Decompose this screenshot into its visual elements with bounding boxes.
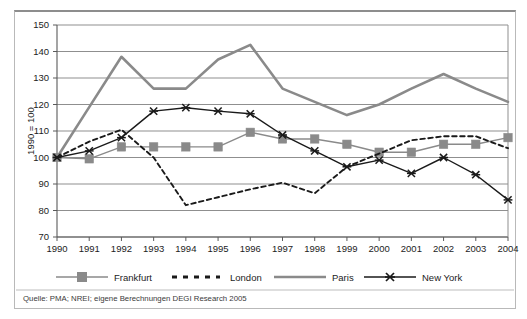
series-marker-frankfurt bbox=[439, 140, 447, 148]
line-chart-svg: 708090100110120130140150 199019911992199… bbox=[0, 0, 527, 319]
x-tick-label: 1990 bbox=[46, 243, 67, 254]
y-tick-label: 150 bbox=[33, 19, 49, 30]
x-tick-label: 1995 bbox=[208, 243, 229, 254]
plot-area-wrapper: 708090100110120130140150 199019911992199… bbox=[0, 0, 527, 319]
legend-item-paris[interactable]: Paris bbox=[274, 272, 354, 283]
y-axis-label: 1990 = 100 bbox=[25, 107, 36, 155]
series-marker-frankfurt bbox=[407, 148, 415, 156]
series-marker-frankfurt bbox=[343, 140, 351, 148]
series-marker-frankfurt bbox=[117, 143, 125, 151]
legend-group: FrankfurtLondonParisNew York bbox=[56, 272, 462, 283]
series-marker-new-york bbox=[439, 154, 448, 161]
x-tick-label: 1991 bbox=[79, 243, 100, 254]
legend-item-frankfurt[interactable]: Frankfurt bbox=[56, 272, 152, 283]
legend-label: London bbox=[230, 272, 262, 283]
series-marker-new-york bbox=[214, 108, 223, 115]
data-series-group bbox=[53, 45, 513, 205]
y-tick-label: 130 bbox=[33, 72, 49, 83]
series-marker-frankfurt bbox=[214, 143, 222, 151]
series-marker-frankfurt bbox=[311, 135, 319, 143]
x-tick-label: 1997 bbox=[272, 243, 293, 254]
series-marker-frankfurt bbox=[246, 128, 254, 136]
legend-label: New York bbox=[422, 272, 462, 283]
y-tick-label: 140 bbox=[33, 46, 49, 57]
series-marker-new-york bbox=[85, 147, 94, 154]
x-tick-label: 2004 bbox=[497, 243, 518, 254]
legend-square-marker bbox=[77, 272, 87, 282]
series-marker-new-york bbox=[117, 134, 126, 141]
chart-figure: 708090100110120130140150 199019911992199… bbox=[0, 0, 527, 319]
x-tick-label: 1996 bbox=[240, 243, 261, 254]
y-tick-label: 70 bbox=[38, 231, 49, 242]
x-tick-label: 2000 bbox=[369, 243, 390, 254]
legend-item-new-york[interactable]: New York bbox=[364, 272, 462, 283]
series-marker-frankfurt bbox=[182, 143, 190, 151]
y-tick-label: 110 bbox=[34, 125, 49, 136]
legend-label: Paris bbox=[332, 272, 354, 283]
footer-group: Quelle: PMA; NREI; eigene Berechnungen D… bbox=[16, 290, 514, 303]
series-marker-frankfurt bbox=[85, 155, 93, 163]
x-tick-label: 1999 bbox=[336, 243, 357, 254]
x-tick-label: 2003 bbox=[465, 243, 486, 254]
series-marker-new-york bbox=[407, 170, 416, 177]
series-marker-frankfurt bbox=[149, 143, 157, 151]
y-tick-label: 90 bbox=[38, 178, 49, 189]
y-tick-label: 80 bbox=[38, 205, 49, 216]
x-tick-label: 1994 bbox=[175, 243, 196, 254]
legend-label: Frankfurt bbox=[114, 272, 152, 283]
legend-x-marker bbox=[385, 273, 395, 281]
legend-item-london[interactable]: London bbox=[172, 272, 262, 283]
source-note: Quelle: PMA; NREI; eigene Berechnungen D… bbox=[23, 294, 247, 303]
y-axis-label-group: 1990 = 100 bbox=[25, 107, 36, 155]
x-tick-labels-group: 1990199119921993199419951996199719981999… bbox=[46, 243, 518, 254]
series-marker-new-york bbox=[181, 104, 190, 111]
x-tick-label: 1992 bbox=[111, 243, 132, 254]
series-marker-new-york bbox=[343, 163, 352, 170]
series-marker-new-york bbox=[310, 147, 319, 154]
x-tick-label: 1993 bbox=[143, 243, 164, 254]
series-marker-new-york bbox=[246, 110, 255, 117]
x-tick-label: 1998 bbox=[304, 243, 325, 254]
series-marker-new-york bbox=[149, 108, 158, 115]
series-marker-frankfurt bbox=[504, 133, 512, 141]
x-tick-label: 2001 bbox=[401, 243, 422, 254]
x-tick-label: 2002 bbox=[433, 243, 454, 254]
series-marker-frankfurt bbox=[472, 140, 480, 148]
series-marker-new-york bbox=[471, 171, 480, 178]
